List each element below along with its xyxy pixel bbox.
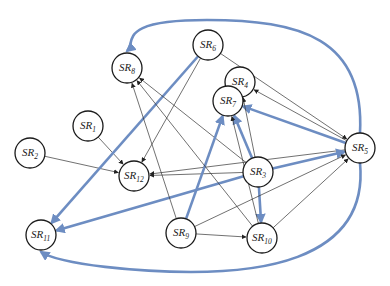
nodes-layer: SR1SR2SR3SR4SR5SR6SR7SR8SR9SR10SR11SR12 (15, 30, 375, 253)
node-sr2: SR2 (15, 138, 45, 168)
edge-sr9-to-sr10 (196, 234, 246, 237)
node-sr7: SR7 (213, 86, 243, 116)
node-sr10: SR10 (247, 223, 277, 253)
edge-sr3-to-sr10 (259, 187, 261, 222)
node-sr5: SR5 (345, 133, 375, 163)
edge-sr10-to-sr5 (273, 159, 348, 228)
node-sr6: SR6 (193, 30, 223, 60)
node-sr3: SR3 (243, 157, 273, 187)
edge-sr9-to-sr8 (132, 83, 176, 219)
edge-sr1-to-sr12 (98, 137, 123, 164)
node-sr1: SR1 (73, 111, 103, 141)
node-sr12: SR12 (119, 161, 149, 191)
node-sr8: SR8 (112, 53, 142, 83)
directed-graph: SR1SR2SR3SR4SR5SR6SR7SR8SR9SR10SR11SR12 (0, 0, 390, 286)
edge-sr3-to-sr12 (150, 172, 243, 175)
node-sr11: SR11 (26, 220, 56, 250)
node-sr9: SR9 (166, 218, 196, 248)
edge-sr9-to-sr7 (186, 116, 223, 219)
